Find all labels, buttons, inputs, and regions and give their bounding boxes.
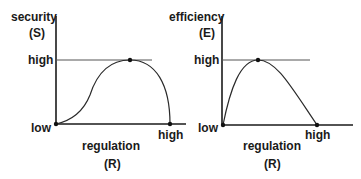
security-high-tick: high — [28, 53, 53, 67]
efficiency-axis-label: efficiency — [169, 10, 224, 24]
security-curve — [56, 60, 170, 124]
security-high-regulation-dot — [168, 122, 172, 126]
security-regulation-high-tick: high — [158, 128, 183, 142]
security-low-tick: low — [31, 121, 51, 135]
efficiency-axis-symbol: (E) — [199, 26, 215, 40]
security-regulation-symbol: (R) — [104, 157, 121, 171]
efficiency-curve — [223, 60, 317, 125]
diagram-canvas — [0, 0, 361, 179]
security-axis-symbol: (S) — [29, 26, 45, 40]
efficiency-high-tick: high — [194, 53, 219, 67]
efficiency-low-tick: low — [198, 121, 218, 135]
security-peak-dot — [128, 58, 132, 62]
efficiency-high-regulation-dot — [315, 123, 319, 127]
efficiency-chart — [221, 16, 353, 127]
security-origin-dot — [54, 122, 58, 126]
efficiency-regulation-symbol: (R) — [264, 157, 281, 171]
efficiency-origin-dot — [221, 123, 225, 127]
efficiency-regulation-label: regulation — [243, 139, 301, 153]
efficiency-peak-dot — [256, 58, 260, 62]
security-regulation-label: regulation — [82, 139, 140, 153]
security-chart — [54, 16, 186, 126]
efficiency-regulation-high-tick: high — [305, 128, 330, 142]
security-axis-label: security — [11, 10, 57, 24]
